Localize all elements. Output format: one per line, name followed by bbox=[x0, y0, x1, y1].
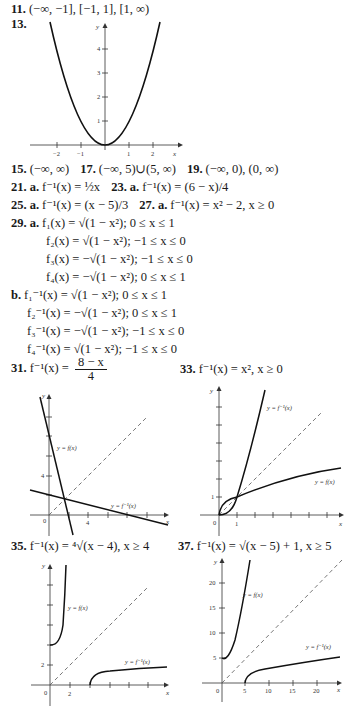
f-label: y = f(x) bbox=[314, 478, 335, 486]
x-axis-label: x bbox=[165, 689, 170, 697]
problem-number: 15. bbox=[11, 162, 27, 176]
f-inverse-label: y = f⁻¹(x) bbox=[305, 643, 331, 651]
f-label: y = f(x) bbox=[56, 444, 77, 452]
answer-text: f⁻¹(x) = x² − 2, x ≥ 0 bbox=[170, 198, 274, 212]
y-tick-label: 2 bbox=[41, 661, 44, 668]
answer-29-b-line-1: b.f₁⁻¹(x) = √(1 − x²); 0 ≤ x ≤ 1 bbox=[11, 288, 167, 302]
answer-text: (−∞, 5)∪(5, ∞) bbox=[99, 162, 176, 176]
part-label: a. bbox=[30, 180, 39, 194]
x-tick-label: −1 bbox=[77, 150, 84, 157]
f-inverse-label: y = f⁻¹(x) bbox=[110, 502, 136, 510]
answers-row-25: 25.a.f⁻¹(x) = (x − 5)/3 27.a.f⁻¹(x) = x²… bbox=[11, 198, 274, 212]
x-tick-label: 1 bbox=[235, 520, 238, 527]
x-tick-label: 4 bbox=[86, 519, 90, 526]
answer-31: 31.f⁻¹(x) = 8 − x4 bbox=[11, 356, 107, 383]
y-tick-label: 4 bbox=[97, 45, 101, 52]
y-tick-label: 20 bbox=[209, 579, 216, 586]
answer-29-b-line-2: f₂⁻¹(x) = −√(1 − x²); 0 ≤ x ≤ 1 bbox=[27, 306, 177, 320]
y-axis-label: y bbox=[41, 562, 46, 570]
f-label: y = f(x) bbox=[242, 591, 263, 599]
answer-text: f⁻¹(x) = (6 − x)/4 bbox=[142, 180, 228, 194]
answer-text: f₁⁻¹(x) = √(1 − x²); 0 ≤ x ≤ 1 bbox=[24, 288, 167, 302]
problem-number: 33. bbox=[180, 362, 196, 376]
part-label: b. bbox=[11, 288, 21, 302]
x-tick-label: 15 bbox=[289, 687, 296, 694]
y-axis-label: y bbox=[95, 23, 100, 31]
graph-37: 0 5 10 15 20 5 10 15 20 y x y = f(x) y =… bbox=[180, 550, 357, 713]
x-tick-label: 20 bbox=[313, 687, 320, 694]
graph-13-parabola: −2 −1 1 2 1 2 3 4 y x bbox=[0, 0, 357, 160]
answers-row-15: 15.(−∞, ∞) 17.(−∞, 5)∪(5, ∞) 19.(−∞, 0),… bbox=[11, 162, 278, 176]
part-label: a. bbox=[30, 216, 39, 230]
problem-number: 19. bbox=[187, 162, 203, 176]
y-tick-label: 2 bbox=[97, 93, 100, 100]
answer-text: (−∞, ∞) bbox=[30, 162, 69, 176]
answer-29-a-line-3: f₃(x) = −√(1 − x²); −1 ≤ x ≤ 0 bbox=[46, 252, 193, 266]
part-label: a. bbox=[30, 198, 39, 212]
problem-number: 23. bbox=[111, 180, 127, 194]
y-axis-label: y bbox=[209, 387, 214, 395]
y-tick-label: 10 bbox=[209, 629, 216, 636]
x-tick-label: 1 bbox=[127, 150, 130, 157]
answer-text: f₁(x) = √(1 − x²); 0 ≤ x ≤ 1 bbox=[42, 216, 175, 230]
graph-31: 0 4 4 y x y = f(x) y = f⁻¹(x) bbox=[0, 380, 180, 540]
problem-number: 31. bbox=[11, 361, 27, 375]
y-tick-label: 1 bbox=[97, 117, 100, 124]
origin-label: 0 bbox=[44, 689, 47, 696]
answers-row-21: 21.a.f⁻¹(x) = ½x 23.a.f⁻¹(x) = (6 − x)/4 bbox=[11, 180, 228, 194]
x-axis-label: x bbox=[338, 520, 343, 528]
answer-text: f⁻¹(x) = ½x bbox=[42, 180, 100, 194]
x-tick-label: −2 bbox=[53, 150, 60, 157]
y-axis-label: y bbox=[41, 392, 46, 400]
f-inverse-label: y = f⁻¹(x) bbox=[266, 404, 292, 412]
answer-text: f⁻¹(x) = x², x ≥ 0 bbox=[199, 362, 283, 376]
y-tick-label: 15 bbox=[209, 604, 216, 611]
graph-35: 0 2 2 y x y = f(x) y = f⁻¹(x) bbox=[0, 550, 180, 713]
answer-29-b-line-4: f₄⁻¹(x) = √(1 − x²); −1 ≤ x ≤ 0 bbox=[27, 342, 177, 356]
answer-29-a-line-4: f₄(x) = −√(1 − x²); 0 ≤ x ≤ 1 bbox=[46, 270, 186, 284]
x-axis-label: x bbox=[172, 150, 177, 158]
problem-number: 17. bbox=[80, 162, 96, 176]
numerator: 8 − x bbox=[75, 356, 107, 370]
x-tick-label: 2 bbox=[151, 150, 154, 157]
part-label: a. bbox=[158, 198, 167, 212]
x-axis-label: x bbox=[336, 686, 341, 694]
answer-29-a-line-1: 29.a.f₁(x) = √(1 − x²); 0 ≤ x ≤ 1 bbox=[11, 216, 175, 230]
answer-29-a-line-2: f₂(x) = √(1 − x²); −1 ≤ x ≤ 0 bbox=[46, 234, 186, 248]
answer-lhs: f⁻¹(x) = bbox=[30, 361, 69, 375]
y-tick-label: 4 bbox=[41, 472, 45, 479]
x-tick-label: 2 bbox=[68, 690, 71, 697]
problem-number: 27. bbox=[139, 198, 155, 212]
y-tick-label: 1 bbox=[211, 493, 214, 500]
f-label: y = f(x) bbox=[67, 604, 88, 612]
origin-label: 0 bbox=[213, 519, 216, 526]
answer-33: 33.f⁻¹(x) = x², x ≥ 0 bbox=[180, 362, 283, 376]
answer-29-b-line-3: f₃⁻¹(x) = −√(1 − x²); −1 ≤ x ≤ 0 bbox=[27, 324, 184, 338]
f-inverse-label: y = f⁻¹(x) bbox=[124, 658, 150, 666]
graph-33: 0 1 1 y x y = f⁻¹(x) y = f(x) bbox=[180, 380, 357, 540]
problem-number: 25. bbox=[11, 198, 27, 212]
answer-text: f⁻¹(x) = (x − 5)/3 bbox=[42, 198, 128, 212]
origin-label: 0 bbox=[43, 517, 46, 524]
fraction: 8 − x4 bbox=[75, 356, 107, 383]
y-tick-label: 3 bbox=[97, 69, 100, 76]
origin-label: 0 bbox=[216, 687, 219, 694]
y-axis-label: y bbox=[213, 558, 218, 566]
x-tick-label: 10 bbox=[265, 687, 272, 694]
problem-number: 29. bbox=[11, 216, 27, 230]
answer-text: (−∞, 0), (0, ∞) bbox=[206, 162, 279, 176]
x-tick-label: 5 bbox=[243, 687, 246, 694]
y-tick-label: 5 bbox=[213, 654, 216, 661]
part-label: a. bbox=[130, 180, 139, 194]
problem-number: 21. bbox=[11, 180, 27, 194]
